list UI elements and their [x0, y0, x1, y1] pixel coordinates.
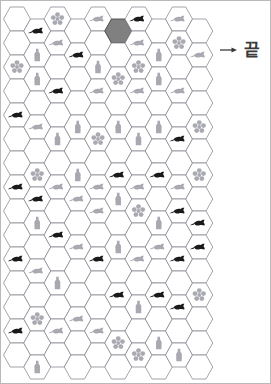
hex-grid[interactable]	[1, 1, 271, 384]
end-label: 끝	[239, 38, 265, 62]
arrow-right-icon	[220, 47, 237, 52]
worksheet-page: 끝	[0, 0, 271, 384]
hex-maze-puzzle: 끝	[1, 1, 271, 384]
